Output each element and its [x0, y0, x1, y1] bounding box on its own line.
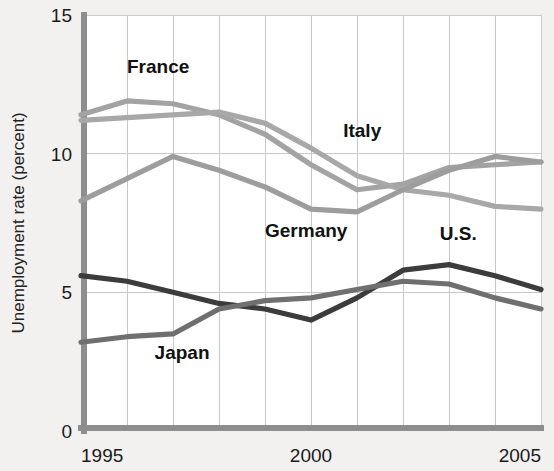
chart-canvas: FranceItalyGermanyU.S.Japan 051015 19952…: [0, 0, 554, 471]
x-tick-label: 2000: [290, 445, 332, 466]
series-label-us: U.S.: [440, 223, 477, 244]
series-label-france: France: [127, 56, 189, 77]
unemployment-rate-chart: FranceItalyGermanyU.S.Japan 051015 19952…: [0, 0, 554, 471]
y-tick-label: 5: [61, 282, 72, 303]
y-axis-title: Unemployment rate (percent): [9, 112, 28, 333]
x-tick-label: 2005: [499, 445, 541, 466]
x-tick-label: 1995: [81, 445, 123, 466]
series-label-italy: Italy: [343, 120, 381, 141]
y-tick-label: 10: [51, 144, 72, 165]
series-label-germany: Germany: [265, 220, 348, 241]
y-tick-label: 15: [51, 5, 72, 26]
y-tick-label: 0: [61, 421, 72, 442]
series-label-japan: Japan: [155, 342, 210, 363]
